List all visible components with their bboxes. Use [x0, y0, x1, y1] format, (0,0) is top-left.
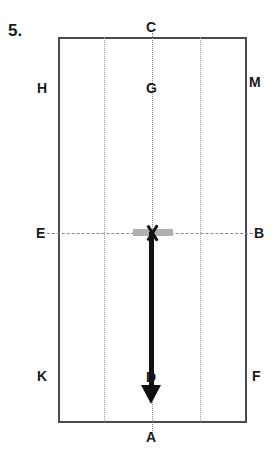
diagram-canvas: 5. C H G M E B K F A D [0, 0, 277, 465]
question-number: 5. [8, 22, 22, 39]
vertical-dotted-line-right [200, 37, 201, 423]
point-label-m: M [249, 75, 261, 89]
point-label-e: E [36, 226, 45, 240]
point-label-d: D [146, 370, 156, 384]
x-marker-icon [144, 224, 161, 242]
point-label-g: G [146, 81, 157, 95]
movement-arrow-shaft [149, 232, 154, 390]
point-label-c: C [146, 20, 156, 34]
vertical-dotted-line-left [104, 37, 105, 423]
point-label-h: H [37, 81, 47, 95]
point-label-a: A [146, 430, 156, 444]
point-label-f: F [252, 369, 261, 383]
movement-arrow-head-icon [141, 385, 161, 404]
point-label-k: K [37, 369, 47, 383]
point-label-b: B [254, 226, 264, 240]
